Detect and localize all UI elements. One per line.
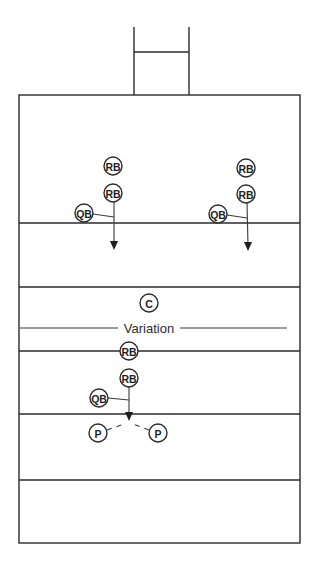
field-boundary xyxy=(19,95,300,543)
player-label: RB xyxy=(238,163,254,175)
arrowhead-icon xyxy=(125,412,133,421)
player-label: RB xyxy=(105,188,121,200)
connector-line xyxy=(93,214,114,217)
player-label: RB xyxy=(121,373,137,385)
player-label: RB xyxy=(121,346,137,358)
player-label: QB xyxy=(91,393,107,405)
run-route xyxy=(247,203,248,245)
player-qb: QB xyxy=(75,204,93,222)
player-c: C xyxy=(140,294,158,312)
player-label: QB xyxy=(210,209,226,221)
arrowhead-icon xyxy=(110,241,118,250)
arrowhead-icon xyxy=(244,242,252,251)
player-p: P xyxy=(149,424,167,442)
player-label: P xyxy=(154,428,161,440)
player-rb: RB xyxy=(120,369,138,387)
connector-line xyxy=(227,215,247,218)
pitch-route xyxy=(107,424,124,430)
goalpost xyxy=(134,27,189,95)
player-p: P xyxy=(89,424,107,442)
playing-field xyxy=(19,95,300,543)
pitch-route xyxy=(133,424,149,430)
player-label: C xyxy=(145,298,153,310)
player-label: P xyxy=(94,428,101,440)
player-label: QB xyxy=(76,208,92,220)
variation-label: Variation xyxy=(124,321,174,336)
player-qb: QB xyxy=(209,205,227,223)
player-rb: RB xyxy=(237,159,255,177)
player-qb: QB xyxy=(90,389,108,407)
connector-line xyxy=(108,398,129,400)
player-rb: RB xyxy=(237,185,255,203)
player-rb: RB xyxy=(120,342,138,360)
player-label: RB xyxy=(238,189,254,201)
player-label: RB xyxy=(105,161,121,173)
player-rb: RB xyxy=(104,184,122,202)
play-routes xyxy=(93,202,252,430)
player-rb: RB xyxy=(104,157,122,175)
variation-divider: Variation xyxy=(20,321,287,336)
players: RBRBQBRBRBQBCRBRBQBPP xyxy=(75,157,255,442)
football-formation-diagram: Variation RBRBQBRBRBQBCRBRBQBPP xyxy=(0,0,320,565)
